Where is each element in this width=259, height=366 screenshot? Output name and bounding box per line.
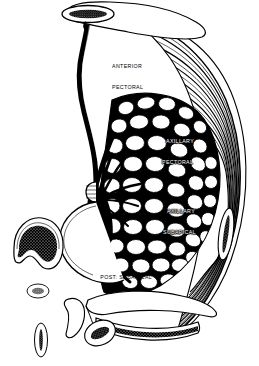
anatomical-figure: ANTERIOR PECTORAL AXILLARY PECTORAL AXIL… bbox=[0, 0, 259, 366]
small-round-node bbox=[27, 284, 49, 298]
breast-lymphatic-drawing bbox=[0, 0, 259, 366]
narrow-oval-node bbox=[35, 323, 48, 357]
apical-lymph-node bbox=[62, 6, 114, 23]
